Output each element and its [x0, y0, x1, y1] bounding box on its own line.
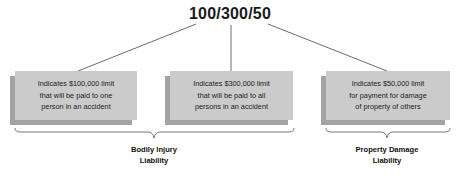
box-front: Indicates $300,000 limit that will be pa… — [170, 71, 293, 120]
box-text-line: persons in an accident — [193, 101, 270, 113]
label-line: Property Damage — [337, 144, 437, 155]
label-line: Bodily Injury — [104, 144, 204, 155]
box-front: Indicates $50,000 limit for payment for … — [326, 71, 450, 120]
box-text-line: person in an accident — [38, 101, 115, 113]
label-line: Liability — [104, 155, 204, 166]
connector-line-3 — [268, 24, 387, 71]
box-text-line: Indicates $100,000 limit — [38, 78, 115, 90]
box-text-line: for payment for damage — [349, 90, 426, 102]
box-text-line: that will be paid to all — [193, 90, 270, 102]
label-line: Liability — [337, 155, 437, 166]
box-text-line: that will be paid to one — [38, 90, 115, 102]
group-label-bodily-injury: Bodily Injury Liability — [104, 144, 204, 166]
brace-bodily-injury — [15, 128, 294, 138]
box-text-line: Indicates $50,000 limit — [349, 78, 426, 90]
box-text-line: of property of others — [349, 101, 426, 113]
connector-line-1 — [78, 24, 196, 71]
box-front: Indicates $100,000 limit that will be pa… — [15, 71, 137, 120]
box-text-line: Indicates $300,000 limit — [193, 78, 270, 90]
brace-property-damage — [326, 128, 450, 138]
group-label-property-damage: Property Damage Liability — [337, 144, 437, 166]
